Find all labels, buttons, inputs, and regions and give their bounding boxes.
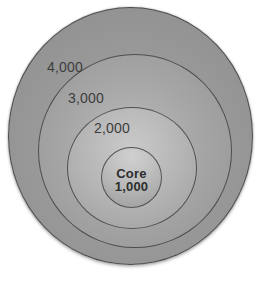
ring-3000-label: 3,000 xyxy=(68,91,104,105)
ring-2000-label: 2,000 xyxy=(94,121,130,135)
core-value: 1,000 xyxy=(115,180,149,193)
ring-4000-label: 4,000 xyxy=(47,60,83,74)
core-circle: Core 1,000 xyxy=(101,147,162,208)
concentric-circles-diagram: Core 1,000 4,000 3,000 2,000 xyxy=(0,0,266,284)
core-label: Core xyxy=(116,167,146,180)
